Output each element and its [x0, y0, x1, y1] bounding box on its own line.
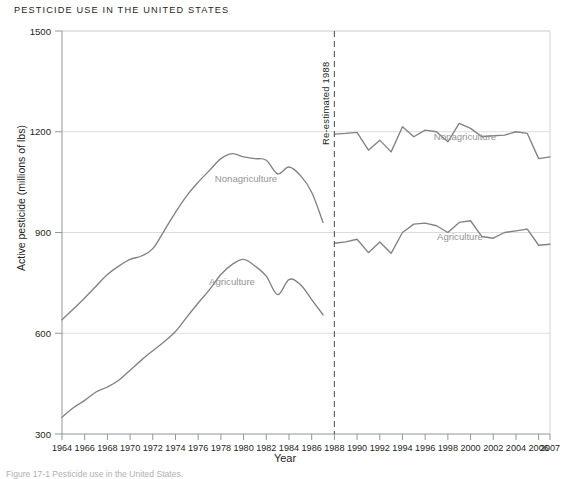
series-line-agriculture-pre-1988	[62, 259, 323, 417]
y-axis-title: Active pesticide (millions of lbs)	[15, 141, 27, 271]
ytick-label-900: 900	[35, 227, 51, 238]
ytick-label-1200: 1200	[30, 126, 51, 137]
pesticide-use-line-chart: 1500 1200 900 600 300 196419661968197019…	[0, 0, 570, 479]
series-label-nonagriculture-2: Nonagriculture	[434, 131, 496, 142]
figure-container: PESTICIDE USE IN THE UNITED STATES 1500 …	[0, 0, 570, 479]
y-axis-ticks: 1500 1200 900 600 300	[30, 26, 62, 440]
series-label-nonagriculture-0: Nonagriculture	[215, 173, 277, 184]
ytick-label-1500: 1500	[30, 26, 51, 37]
x-axis-ticks: 1964196619681970197219741976197819801982…	[52, 434, 560, 453]
ytick-label-300: 300	[35, 429, 51, 440]
ytick-label-600: 600	[35, 328, 51, 339]
series-label-agriculture-3: Agriculture	[437, 231, 483, 242]
data-series-group	[62, 123, 550, 417]
series-label-agriculture-1: Agriculture	[209, 276, 255, 287]
x-axis-title: Year	[0, 452, 570, 464]
series-line-nonagriculture-pre-1988	[62, 154, 323, 320]
re-estimated-label: Re-estimated 1988	[320, 62, 331, 145]
figure-caption: Figure 17-1 Pesticide use in the United …	[6, 469, 183, 479]
